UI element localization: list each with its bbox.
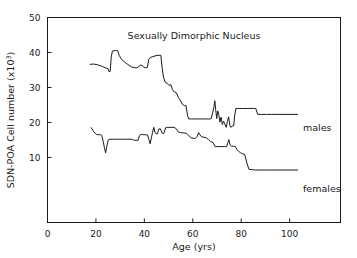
data-series xyxy=(90,50,298,170)
x-tick-label-20: 20 xyxy=(90,229,102,239)
series-line-males xyxy=(90,50,275,127)
y-tick-label-40: 40 xyxy=(29,48,41,58)
x-tick-label-100: 100 xyxy=(281,229,298,239)
x-tick-label-60: 60 xyxy=(187,229,199,239)
x-tick-label-40: 40 xyxy=(139,229,151,239)
series-label-males: males xyxy=(303,122,332,133)
plot-frame xyxy=(48,18,341,223)
series-line-females xyxy=(91,127,274,170)
y-tick-label-30: 30 xyxy=(29,83,41,93)
sdn-poa-line-chart: 0204060801001020304050 Sexually Dimorphi… xyxy=(0,0,357,258)
y-tick-label-10: 10 xyxy=(29,153,41,163)
plot-border xyxy=(48,18,341,223)
y-tick-label-20: 20 xyxy=(29,118,41,128)
chart-figure: 0204060801001020304050 Sexually Dimorphi… xyxy=(0,0,357,258)
axis-ticks xyxy=(48,18,290,223)
y-axis-title: SDN-POA Cell number (x103) xyxy=(5,52,16,189)
series-label-females: females xyxy=(303,183,341,194)
axis-tick-labels: 0204060801001020304050 xyxy=(29,13,298,239)
x-tick-label-0: 0 xyxy=(45,229,51,239)
x-axis-title: Age (yrs) xyxy=(172,241,215,252)
y-axis-title-group: SDN-POA Cell number (x103) xyxy=(5,52,16,189)
x-tick-label-80: 80 xyxy=(235,229,247,239)
y-tick-label-50: 50 xyxy=(29,13,41,23)
chart-title: Sexually Dimorphic Nucleus xyxy=(128,30,261,41)
